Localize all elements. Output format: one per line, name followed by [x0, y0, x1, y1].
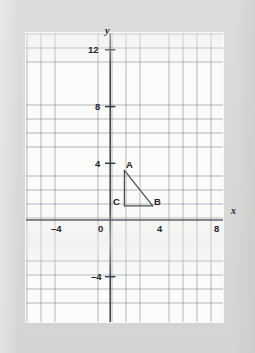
vertex-label-b: B	[154, 196, 161, 207]
y-tick-label-minus4: –4	[91, 271, 102, 282]
y-axis-label: y	[105, 25, 109, 36]
segment-ab	[124, 170, 152, 205]
x-tick-label-8: 8	[214, 223, 219, 234]
plot-area	[26, 33, 223, 322]
x-tick-label-minus4: –4	[51, 223, 62, 234]
y-tick-label-8: 8	[95, 101, 100, 112]
page-background: y x 12 8 4 –4 –4 0 4 8 A B C	[0, 0, 255, 353]
vertex-label-c: C	[113, 196, 120, 207]
x-tick-label-0: 0	[98, 223, 103, 234]
coordinate-grid-figure: y x 12 8 4 –4 –4 0 4 8 A B C	[26, 33, 223, 322]
x-tick-label-4: 4	[157, 223, 162, 234]
y-tick-label-4: 4	[95, 158, 100, 169]
y-tick-label-12: 12	[88, 44, 99, 55]
vertex-label-a: A	[126, 159, 133, 170]
x-axis-label: x	[231, 205, 236, 216]
